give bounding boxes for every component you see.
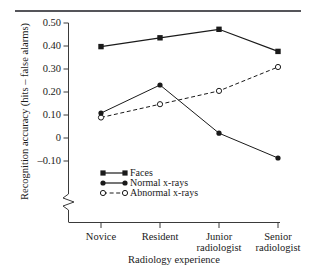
legend-marker-abnormal-x-rays [122, 190, 127, 195]
legend-marker-abnormal-x-rays [100, 190, 105, 195]
y-axis-title: Recognition accuracy (hits – false alarm… [19, 22, 30, 202]
series-line-normal-x-rays [101, 85, 278, 158]
series-point-abnormal-x-rays [275, 64, 280, 69]
y-tick-label-0: 0.50 [26, 17, 61, 28]
y-tick-label-2: 0.30 [26, 63, 61, 74]
series-line-faces [101, 29, 278, 51]
series-point-normal-x-rays [98, 111, 103, 116]
y-tick-label-5: 0 [26, 132, 61, 143]
legend-marker-normal-x-rays [122, 180, 127, 185]
series-point-abnormal-x-rays [157, 102, 162, 107]
series-point-normal-x-rays [157, 82, 162, 87]
series-point-faces [216, 27, 221, 32]
series-line-abnormal-x-rays [101, 67, 278, 118]
y-tick-label-1: 0.40 [26, 40, 61, 51]
legend-label-abnormal-x-rays: Abnormal x-rays [130, 188, 198, 198]
series-point-faces [98, 44, 103, 49]
x-axis-title: Radiology experience [68, 254, 280, 265]
series-point-faces [275, 49, 280, 54]
series-point-normal-x-rays [275, 155, 280, 160]
series-point-abnormal-x-rays [216, 88, 221, 93]
axis-break-icon [63, 194, 74, 210]
legend-marker-faces [100, 170, 105, 175]
x-tick-label-senior-line1: Senior [238, 231, 316, 243]
legend-marker-normal-x-rays [100, 180, 105, 185]
series-point-faces [157, 35, 162, 40]
figure-container: 0.50 0.40 0.30 0.20 0.10 0 –0.10 Recogni… [0, 0, 316, 273]
legend-marker-faces [122, 170, 127, 175]
x-tick-label-senior-line2: radiologist [238, 242, 316, 254]
y-tick-label-4: 0.10 [26, 109, 61, 120]
y-tick-label-3: 0.20 [26, 86, 61, 97]
series-point-normal-x-rays [216, 131, 221, 136]
